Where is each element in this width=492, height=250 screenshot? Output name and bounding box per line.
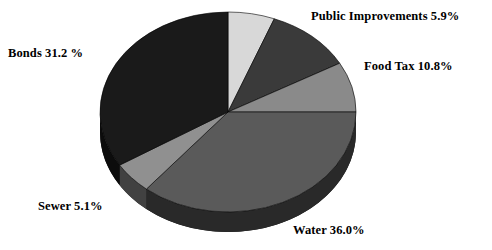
pie-slices-layer	[100, 12, 356, 212]
pie-label-sewer: Sewer 5.1%	[38, 200, 103, 214]
pie-label-food-tax: Food Tax 10.8%	[364, 60, 453, 74]
pie-chart: Public Improvements 5.9% Food Tax 10.8% …	[0, 0, 492, 250]
pie-label-bonds: Bonds 31.2 %	[8, 47, 83, 61]
pie-label-water: Water 36.0%	[293, 224, 365, 238]
pie-label-public-improvements: Public Improvements 5.9%	[311, 10, 459, 24]
